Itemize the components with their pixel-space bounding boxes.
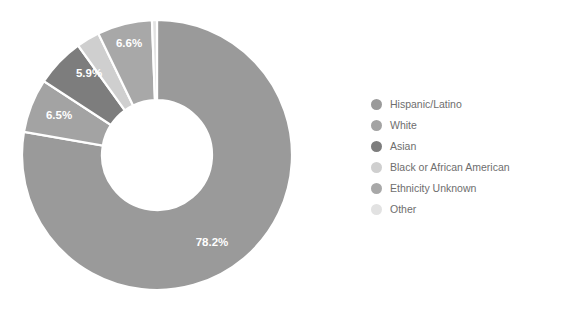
donut-chart-figure: 78.2%6.5%5.9%6.6% Hispanic/LatinoWhiteAs… (0, 0, 561, 315)
legend-item[interactable]: Ethnicity Unknown (371, 178, 551, 199)
legend-item[interactable]: Asian (371, 136, 551, 157)
legend-item-label: Hispanic/Latino (390, 99, 462, 110)
donut-slice-percent-label: 5.9% (76, 67, 102, 79)
legend-swatch-icon (371, 99, 382, 110)
legend-item[interactable]: White (371, 115, 551, 136)
legend-item-label: Ethnicity Unknown (390, 183, 476, 194)
donut-slice-percent-label: 6.6% (116, 37, 142, 49)
legend-item[interactable]: Hispanic/Latino (371, 94, 551, 115)
legend-item-label: Black or African American (390, 162, 510, 173)
legend-swatch-icon (371, 120, 382, 131)
donut-slice-percent-label: 6.5% (46, 109, 72, 121)
legend-item[interactable]: Other (371, 199, 551, 220)
donut-slices-group (22, 20, 292, 290)
legend-item-label: Asian (390, 141, 416, 152)
legend-swatch-icon (371, 204, 382, 215)
legend-swatch-icon (371, 141, 382, 152)
legend-item-label: White (390, 120, 417, 131)
donut-slice-percent-label: 78.2% (196, 236, 229, 248)
legend-swatch-icon (371, 183, 382, 194)
legend-item-label: Other (390, 204, 416, 215)
legend-item[interactable]: Black or African American (371, 157, 551, 178)
chart-legend: Hispanic/LatinoWhiteAsianBlack or Africa… (371, 94, 551, 220)
legend-swatch-icon (371, 162, 382, 173)
